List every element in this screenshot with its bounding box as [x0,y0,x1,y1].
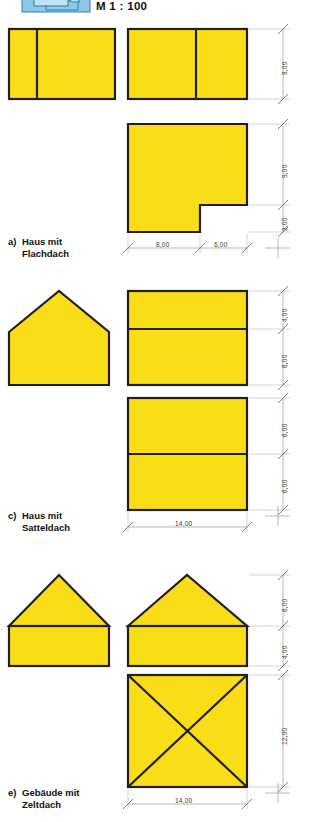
dimension-a-horizontal [123,234,252,254]
dimlabel-a-vertical-9: 9,00 [281,165,288,178]
elevation-c-gable [9,291,109,385]
caption-section-e: e)Gebäude mit Zeltdach [8,787,80,810]
scale-note: M 1 : 100 [96,0,147,12]
plan-c-upper [128,291,247,385]
technical-drawing-canvas: .fillshape { fill: #F9DD16; stroke: #231… [0,0,309,822]
plan-e-tent-roof [128,675,247,787]
caption-a-line1: Haus mit [22,236,62,247]
cad-layer-icon [22,0,90,12]
caption-a-letter: a) [8,236,22,248]
registration-mark-a [265,238,290,258]
plan-c-lower [128,398,247,510]
caption-e-line2: Zeltdach [22,799,80,811]
dimension-c-vertical-lower [249,393,290,515]
plan-a-left [9,29,115,99]
dimlabel-c-vertical-4: 4,00 [281,309,288,322]
dimlabel-a-horizontal-8: 8,00 [156,241,169,248]
registration-mark-e [265,783,290,803]
caption-section-a: a)Haus mit Flachdach [8,236,69,259]
caption-e-letter: e) [8,787,22,799]
caption-e-line1: Gebäude mit [22,787,80,798]
dimlabel-a-vertical-8: 8,00 [281,62,288,75]
caption-c-line1: Haus mit [22,510,62,521]
dimlabel-e-vertical-12: 12,00 [281,728,288,745]
dimlabel-e-vertical-6: 6,00 [281,599,288,612]
caption-section-c: c)Haus mit Satteldach [8,510,70,533]
caption-c-letter: c) [8,510,22,522]
dimlabel-c-horizontal-14: 14,00 [175,520,192,527]
dimlabel-a-horizontal-6: 6,00 [214,241,227,248]
dimlabel-c-vertical-6a: 6,00 [281,355,288,368]
dimlabel-c-vertical-6b: 6,00 [281,424,288,437]
plan-a-lshape [128,124,247,232]
caption-c-line2: Satteldach [22,522,70,534]
figure-sheet: .fillshape { fill: #F9DD16; stroke: #231… [0,0,309,822]
registration-mark-c [265,506,290,526]
dimension-c-vertical-upper [249,286,290,390]
dimlabel-e-horizontal-14: 14,00 [175,797,192,804]
dimlabel-c-vertical-6c: 6,00 [281,480,288,493]
elevation-e-left [9,575,109,666]
plan-a-right [128,29,247,99]
elevation-e-right [128,575,247,666]
dimlabel-a-vertical-3: 3,00 [281,218,288,231]
caption-a-line2: Flachdach [22,248,69,260]
dimlabel-e-vertical-4: 4,00 [281,646,288,659]
